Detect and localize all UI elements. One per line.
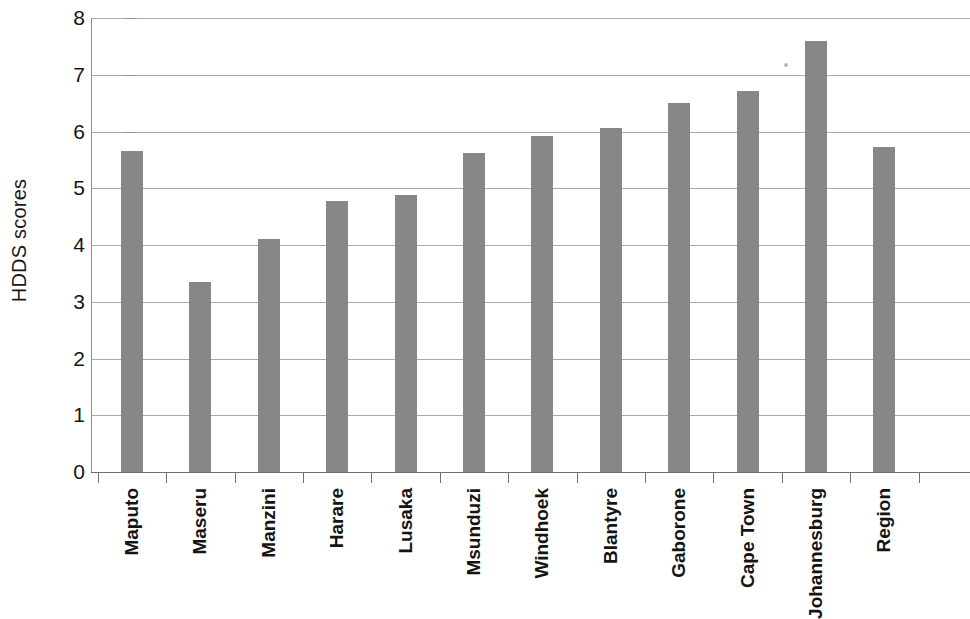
bar-windhoek xyxy=(531,136,553,472)
x-axis-label-text: Cape Town xyxy=(737,488,759,588)
gridline-8 xyxy=(91,18,970,19)
x-tick-mark-10 xyxy=(782,472,783,483)
x-tick-mark-12 xyxy=(919,472,920,483)
x-axis-label-manzini: Manzini xyxy=(260,488,278,608)
bar-johannesburg xyxy=(805,41,827,472)
y-tick-label-8: 8 xyxy=(55,7,85,28)
bar-lusaka xyxy=(395,195,417,472)
bar-maputo xyxy=(121,151,143,472)
bar-harare xyxy=(326,201,348,472)
x-axis-label-blantyre: Blantyre xyxy=(602,488,620,608)
x-axis-label-text: Maputo xyxy=(121,488,143,556)
x-axis-label-region: Region xyxy=(875,488,893,608)
x-axis-label-text: Region xyxy=(873,488,895,552)
bar-cape-town xyxy=(737,91,759,472)
y-tick-label-1: 1 xyxy=(55,404,85,425)
y-tick-label-7: 7 xyxy=(55,64,85,85)
y-tick-label-3: 3 xyxy=(55,291,85,312)
y-tick-label-2: 2 xyxy=(55,348,85,369)
x-axis-label-text: Windhoek xyxy=(531,488,553,579)
x-tick-mark-1 xyxy=(166,472,167,483)
bar-region xyxy=(873,147,895,472)
x-tick-mark-5 xyxy=(440,472,441,483)
x-tick-mark-7 xyxy=(577,472,578,483)
scan-artifact-speck xyxy=(784,63,788,67)
bar-gaborone xyxy=(668,103,690,472)
x-tick-mark-4 xyxy=(371,472,372,483)
x-axis-label-text: Manzini xyxy=(258,488,280,558)
y-tick-label-4: 4 xyxy=(55,234,85,255)
gridline-7 xyxy=(91,75,970,76)
x-axis-label-msunduzi: Msunduzi xyxy=(465,488,483,608)
bar-blantyre xyxy=(600,128,622,472)
x-axis-label-maseru: Maseru xyxy=(191,488,209,608)
x-axis-label-text: Msunduzi xyxy=(463,488,485,576)
x-tick-mark-11 xyxy=(850,472,851,483)
x-axis-label-text: Harare xyxy=(326,488,348,548)
x-axis-label-cape-town: Cape Town xyxy=(739,488,757,608)
x-tick-mark-2 xyxy=(235,472,236,483)
x-axis-label-text: Maseru xyxy=(189,488,211,555)
bar-msunduzi xyxy=(463,153,485,472)
x-axis-label-lusaka: Lusaka xyxy=(397,488,415,608)
y-tick-label-0: 0 xyxy=(55,461,85,482)
x-axis-label-windhoek: Windhoek xyxy=(533,488,551,608)
y-tick-label-6: 6 xyxy=(55,121,85,142)
x-tick-mark-6 xyxy=(508,472,509,483)
y-axis-title: HDDS scores xyxy=(0,130,40,350)
x-tick-mark-9 xyxy=(713,472,714,483)
x-tick-mark-8 xyxy=(645,472,646,483)
y-tick-label-5: 5 xyxy=(55,177,85,198)
y-axis-title-text: HDDS scores xyxy=(9,178,32,301)
x-axis-label-harare: Harare xyxy=(328,488,346,608)
x-axis-label-gaborone: Gaborone xyxy=(670,488,688,608)
x-tick-mark-3 xyxy=(303,472,304,483)
x-axis-label-text: Gaborone xyxy=(668,488,690,578)
gridline-0 xyxy=(91,472,970,473)
gridline-6 xyxy=(91,132,970,133)
x-axis-label-maputo: Maputo xyxy=(123,488,141,608)
x-axis-label-johannesburg: Johannesburg xyxy=(807,488,825,608)
x-axis-label-text: Johannesburg xyxy=(805,488,827,619)
x-tick-mark-0 xyxy=(98,472,99,483)
x-axis-label-text: Lusaka xyxy=(395,488,417,553)
y-axis-ticks: 876543210 xyxy=(40,0,85,618)
plot-area xyxy=(91,18,970,472)
x-axis-label-text: Blantyre xyxy=(600,488,622,564)
bar-manzini xyxy=(258,239,280,472)
bar-maseru xyxy=(189,282,211,472)
